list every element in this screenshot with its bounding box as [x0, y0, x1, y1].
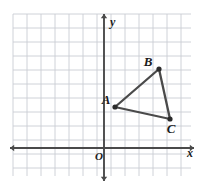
- vertex-label-c: C: [167, 121, 176, 136]
- vertex-label-a: A: [101, 92, 111, 107]
- vertex-point-b: [156, 66, 161, 71]
- plot-svg: ABC x y O: [0, 0, 203, 187]
- coordinate-plane-figure: ABC x y O: [0, 0, 203, 187]
- origin-label: O: [95, 150, 103, 162]
- y-axis-label: y: [108, 15, 116, 29]
- vertex-label-b: B: [143, 54, 153, 69]
- vertex-point-a: [112, 104, 117, 109]
- x-axis-label: x: [186, 146, 193, 160]
